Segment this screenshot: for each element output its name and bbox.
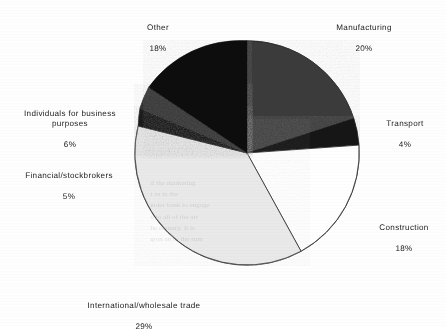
pie-label-transport: Transport 4% bbox=[372, 108, 438, 161]
pie-label-individuals-for-business-purposes-percent: 6% bbox=[14, 140, 126, 151]
pie-label-manufacturing: Manufacturing 20% bbox=[318, 12, 410, 65]
pie-label-transport-name: Transport bbox=[372, 119, 438, 130]
pie-label-financial-stockbrokers-percent: 5% bbox=[12, 192, 126, 203]
pie-label-construction-name: Construction bbox=[366, 223, 442, 234]
pie-label-individuals-for-business-purposes-name: Individuals for business purposes bbox=[14, 109, 126, 130]
pie-label-other-name: Other bbox=[118, 23, 198, 34]
pie-label-other-percent: 18% bbox=[118, 44, 198, 55]
pie-chart-graphic bbox=[134, 40, 360, 266]
pie-label-financial-stockbrokers-name: Financial/stockbrokers bbox=[12, 171, 126, 182]
pie-label-transport-percent: 4% bbox=[372, 140, 438, 151]
pie-label-individuals-for-business-purposes: Individuals for business purposes 6% bbox=[14, 98, 126, 162]
pie-label-international-wholesale-trade-percent: 29% bbox=[52, 322, 236, 333]
pie-label-international-wholesale-trade: International/wholesale trade 29% bbox=[52, 290, 236, 333]
pie-label-international-wholesale-trade-name: International/wholesale trade bbox=[52, 301, 236, 312]
pie-label-financial-stockbrokers: Financial/stockbrokers 5% bbox=[12, 160, 126, 213]
pie-label-manufacturing-percent: 20% bbox=[318, 44, 410, 55]
pie-svg bbox=[134, 40, 360, 266]
pie-label-other: Other 18% bbox=[118, 12, 198, 65]
pie-label-construction-percent: 18% bbox=[366, 244, 442, 255]
pie-label-construction: Construction 18% bbox=[366, 212, 442, 265]
pie-label-manufacturing-name: Manufacturing bbox=[318, 23, 410, 34]
